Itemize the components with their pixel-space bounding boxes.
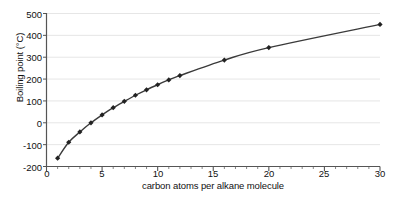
data-point [177, 73, 182, 78]
plot-area [0, 0, 406, 199]
data-line [58, 24, 380, 158]
x-axis-major-ticks [47, 167, 381, 172]
data-point [377, 22, 382, 27]
boiling-point-chart: Boiling point (°C) 500 400 300 200 100 0… [0, 0, 406, 199]
data-point [133, 93, 138, 98]
data-point [222, 57, 227, 62]
data-markers [55, 22, 383, 161]
gridlines [47, 14, 381, 145]
data-point [144, 87, 149, 92]
data-point [266, 45, 271, 50]
data-point [155, 82, 160, 87]
data-point [166, 77, 171, 82]
